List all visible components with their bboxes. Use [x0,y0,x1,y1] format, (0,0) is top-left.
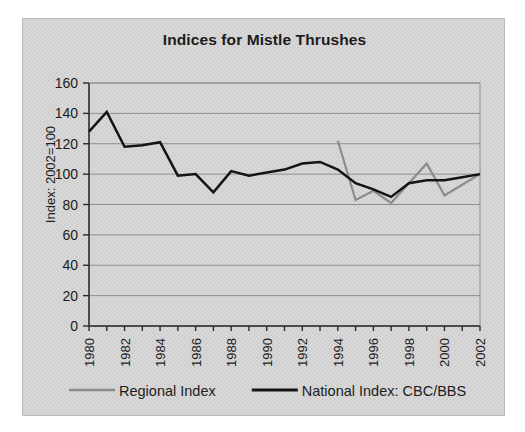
x-tick-label: 1992 [295,338,310,367]
y-tick-label: 140 [55,105,79,121]
chart-legend: Regional IndexNational Index: CBC/BBS [69,383,466,399]
figure-canvas: Indices for Mistle Thrushes Index: 2002=… [0,0,525,432]
x-tick-label: 1998 [402,338,417,367]
y-tick-label: 160 [55,75,79,91]
x-tick-label: 1988 [224,338,239,367]
x-tick-label: 1982 [118,338,133,367]
y-tick-label: 100 [55,166,79,182]
series-line [89,112,480,197]
y-tick-label: 20 [62,288,78,304]
y-tick-label: 120 [55,136,79,152]
y-tick-label: 40 [62,257,78,273]
line-chart-plot: 020406080100120140160 198019821984198619… [23,19,506,417]
x-tick-label: 1984 [153,338,168,367]
x-tick-label: 1994 [331,338,346,367]
legend-label: National Index: CBC/BBS [302,383,466,399]
x-tick-label: 1986 [189,338,204,367]
series-line [338,141,480,203]
x-tick-label: 1990 [260,338,275,367]
y-tick-label: 0 [70,318,78,334]
x-tick-label: 2002 [473,338,488,367]
chart-panel: Indices for Mistle Thrushes Index: 2002=… [22,18,505,416]
x-tick-label: 2000 [437,338,452,367]
data-series [89,112,480,203]
y-tick-label: 80 [62,197,78,213]
legend-label: Regional Index [119,383,216,399]
gridlines [89,83,480,326]
x-tick-label: 1996 [366,338,381,367]
y-axis-ticks: 020406080100120140160 [55,75,89,334]
x-axis-ticks: 1980198219841986198819901992199419961998… [82,326,488,367]
x-tick-label: 1980 [82,338,97,367]
y-tick-label: 60 [62,227,78,243]
